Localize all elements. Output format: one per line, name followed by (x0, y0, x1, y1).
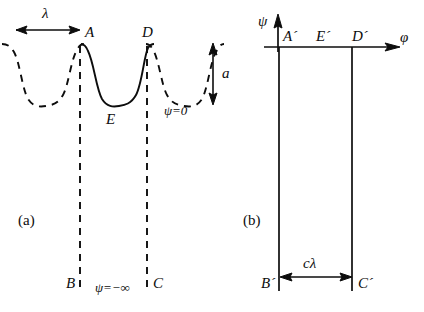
figure-canvas: λ A D E ψ=0 a (a) B C ψ=−∞ ψ φ A´ E´ D´ … (0, 0, 424, 312)
bottom-condition-label: ψ=−∞ (95, 281, 130, 294)
figure-vector-layer (0, 0, 424, 312)
amplitude-arrow (209, 43, 217, 105)
strip-width-arrow (280, 273, 352, 281)
point-label-E: E (106, 112, 115, 127)
point-label-E-prime: E´ (316, 29, 330, 44)
strip-width-label: cλ (303, 256, 316, 271)
panel-tag-b: (b) (243, 213, 261, 228)
point-label-C: C (153, 276, 163, 291)
wavelength-label: λ (42, 6, 49, 21)
wave-dashed-left (2, 44, 84, 106)
point-label-D-prime: D´ (352, 29, 368, 44)
surface-condition-label: ψ=0 (164, 104, 187, 117)
point-label-C-prime: C´ (358, 276, 373, 291)
point-label-A-prime: A´ (283, 29, 297, 44)
amplitude-label: a (222, 66, 230, 81)
wavelength-arrow (16, 26, 80, 34)
wave-solid-period (81, 44, 154, 106)
point-label-D: D (142, 25, 153, 40)
phi-axis-label: φ (400, 30, 408, 45)
psi-axis-label: ψ (258, 14, 267, 29)
point-label-A: A (85, 25, 94, 40)
panel-tag-a: (a) (18, 213, 35, 228)
point-label-B: B (66, 276, 75, 291)
point-label-B-prime: B´ (261, 276, 275, 291)
phi-axis (264, 43, 400, 51)
